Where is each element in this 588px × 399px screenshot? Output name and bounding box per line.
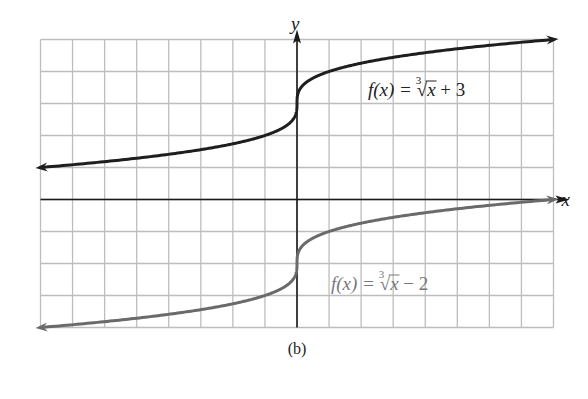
- curve-label-top: f(x) = √x + 33: [368, 74, 465, 101]
- figure-caption: (b): [0, 340, 588, 358]
- root-index: 3: [379, 268, 385, 280]
- y-axis-label: y: [289, 13, 300, 34]
- curve-labels: f(x) = √x + 33f(x) = √x − 23: [331, 74, 465, 295]
- curve-label-bottom: f(x) = √x − 23: [331, 268, 428, 295]
- axes: xy: [41, 13, 571, 328]
- root-index: 3: [416, 74, 422, 86]
- x-axis-label: x: [561, 189, 571, 210]
